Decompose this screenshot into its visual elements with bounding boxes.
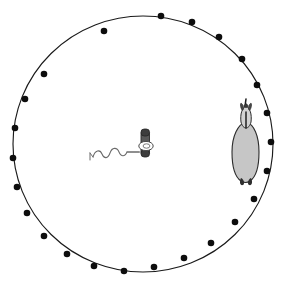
mouse-snout (244, 104, 248, 108)
perimeter-marker (10, 155, 17, 162)
perimeter-marker (101, 28, 108, 35)
perimeter-marker (158, 13, 165, 20)
device-top-cap (141, 129, 150, 136)
device-collar-ring (139, 141, 153, 150)
perimeter-marker (24, 210, 31, 217)
perimeter-marker (251, 196, 258, 203)
perimeter-marker (41, 233, 48, 240)
perimeter-marker (268, 139, 275, 146)
perimeter-marker (208, 240, 215, 247)
figure-root: Circular open-field arena with perimeter… (0, 0, 284, 288)
arena-diagram-svg (0, 0, 284, 288)
perimeter-marker (232, 219, 239, 226)
perimeter-marker (264, 110, 271, 117)
perimeter-marker (14, 184, 21, 191)
perimeter-marker (22, 96, 29, 103)
perimeter-marker (254, 82, 261, 89)
perimeter-marker (41, 71, 48, 78)
mouse-body (232, 122, 259, 183)
perimeter-marker (151, 264, 158, 271)
perimeter-marker (239, 56, 246, 63)
perimeter-marker (216, 34, 223, 41)
perimeter-marker (121, 268, 128, 275)
perimeter-marker (64, 251, 71, 258)
perimeter-marker (12, 125, 19, 132)
perimeter-marker (189, 19, 196, 26)
perimeter-marker (91, 263, 98, 270)
perimeter-marker (181, 255, 188, 262)
perimeter-marker (264, 168, 271, 175)
